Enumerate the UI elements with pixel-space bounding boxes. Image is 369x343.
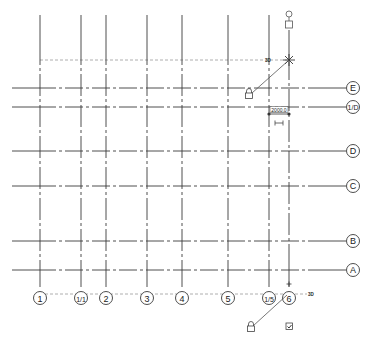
grid-bubble-label: 3 <box>144 294 149 304</box>
grid-bubble[interactable]: 2 <box>100 292 113 305</box>
grid-bubble[interactable]: 1/D <box>347 101 360 114</box>
grid-plan[interactable]: 11/123451/56 E1/DDCBA 3D2000.03D <box>0 0 369 343</box>
grid-line-2[interactable]: 2 <box>100 15 113 305</box>
grid-bubble[interactable]: 4 <box>176 292 189 305</box>
grid-bubble-label: 2 <box>103 294 108 304</box>
3d-toggle-top[interactable]: 3D <box>265 58 272 63</box>
grid-bubble-label: 4 <box>179 294 184 304</box>
grid-line-A[interactable]: A <box>12 264 360 277</box>
lock-icon[interactable] <box>248 322 255 332</box>
grid-bubble[interactable]: 3 <box>141 292 154 305</box>
grid-line-1-1[interactable]: 1/1 <box>75 15 88 305</box>
grid-line-B[interactable]: B <box>12 235 360 248</box>
drag-handle-top[interactable] <box>286 11 292 21</box>
3d-toggle-bottom[interactable]: 3D <box>308 292 315 297</box>
dimension-2000[interactable]: 2000.0 <box>267 107 290 116</box>
grid-line-5[interactable]: 5 <box>222 15 235 305</box>
grid-bubble-label: 1/5 <box>264 296 274 303</box>
grid-bubble-label: B <box>350 236 356 246</box>
grid-bubble-label: A <box>350 265 356 275</box>
grid-extents <box>40 60 307 294</box>
grid-bubble[interactable]: A <box>347 264 360 277</box>
grid-bubble[interactable]: B <box>347 235 360 248</box>
grid-bubble[interactable]: C <box>347 180 360 193</box>
horizontal-grid-lines[interactable]: E1/DDCBA <box>12 82 360 277</box>
grid-bubble[interactable]: 6 <box>283 292 296 305</box>
grid-line-6[interactable]: 6 <box>283 30 296 305</box>
grid-bubble-label: 1/1 <box>76 296 86 303</box>
checkbox-checked-icon[interactable] <box>286 323 293 330</box>
grid-line-1[interactable]: 1 <box>34 15 47 305</box>
lock-icon[interactable] <box>246 89 253 99</box>
grid-bubble-label: 1/D <box>348 104 359 111</box>
grid-line-1-D[interactable]: 1/D <box>12 101 360 114</box>
grid-bubble-label: E <box>350 83 356 93</box>
grid-bubble[interactable]: 5 <box>222 292 235 305</box>
drawing-canvas[interactable]: 11/123451/56 E1/DDCBA 3D2000.03D <box>0 0 369 343</box>
grid-line-E[interactable]: E <box>12 82 360 95</box>
dimension-equality-icon[interactable] <box>275 121 283 126</box>
grid-bubble-label: 1 <box>37 294 42 304</box>
grid-bubble[interactable]: 1/1 <box>75 292 88 305</box>
grid-line-4[interactable]: 4 <box>176 15 189 305</box>
dimension-value[interactable]: 2000.0 <box>271 107 287 113</box>
grid-bubble-label: 5 <box>225 294 230 304</box>
grid-bubble-label: D <box>350 146 357 156</box>
drag-handle-bottom[interactable] <box>287 282 292 287</box>
grid-controls[interactable]: 3D2000.03D <box>246 11 315 332</box>
grid-bubble-label: 6 <box>286 294 291 304</box>
grid-bubble-label: C <box>350 181 357 191</box>
grid-bubble[interactable]: 1/5 <box>263 292 276 305</box>
grid-line-3[interactable]: 3 <box>141 15 154 305</box>
grid-bubble[interactable]: 1 <box>34 292 47 305</box>
grid-bubble[interactable]: E <box>347 82 360 95</box>
vertical-grid-lines[interactable]: 11/123451/56 <box>34 15 296 305</box>
grid-bubble[interactable]: D <box>347 145 360 158</box>
grid-line-D[interactable]: D <box>12 145 360 158</box>
square-icon[interactable] <box>286 21 293 28</box>
grid-line-C[interactable]: C <box>12 180 360 193</box>
